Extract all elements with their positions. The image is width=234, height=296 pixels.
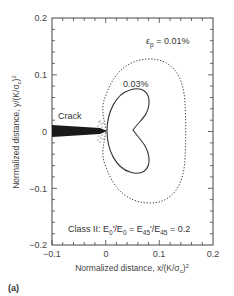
y-tick-label: 0	[42, 127, 47, 137]
x-tick-label: 0.2	[207, 249, 220, 259]
class-note: Class II: E0'/E0 = E45'/E45 = 0.2	[68, 224, 190, 236]
x-tick-label: 0.1	[153, 249, 166, 259]
inner-contour-label: 0.03%	[123, 79, 149, 89]
outer-contour-label: εp = 0.01%	[146, 36, 189, 49]
chart-figure: 0.2 0.1 0 −0.1 −0.2 −0.1 0 0.1 0.2 Norma…	[0, 0, 234, 296]
x-tick-label: −0.1	[43, 249, 61, 259]
x-tick-label: 0	[103, 249, 108, 259]
y-tick-label: −0.1	[29, 184, 47, 194]
y-tick-label: 0.2	[34, 13, 47, 23]
crack-label: Crack	[58, 111, 82, 121]
contour-0.03-percent	[107, 89, 149, 173]
crack-shape	[52, 125, 107, 137]
panel-label: (a)	[8, 283, 19, 293]
y-tick-label: 0.1	[34, 70, 47, 80]
x-axis-title: Normalized distance, x/(K/σc)2	[75, 263, 189, 274]
y-axis-title: Normalized distance, y/(K/σc)2	[11, 75, 22, 189]
